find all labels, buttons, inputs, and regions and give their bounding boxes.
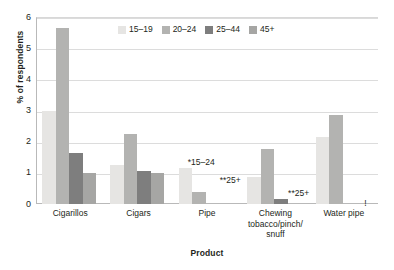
bar [124,134,138,204]
legend-swatch-icon [249,26,257,34]
bar [261,149,275,204]
bar-annotation: ! [364,198,366,208]
legend-item: 25–44 [205,25,240,34]
bar [83,173,97,204]
bar [69,153,83,204]
bar-group [37,18,105,204]
bar-group [105,18,173,204]
bar-group [311,18,379,204]
legend-item: 45+ [249,25,274,34]
bar [192,192,206,204]
y-axis-tick-label: 1 [12,168,31,177]
plot-area: *15–24**25+**25+! [36,17,378,204]
legend-label: 25–44 [216,25,240,34]
legend-label: 20–24 [173,25,197,34]
legend-swatch-icon [205,26,213,34]
bar [316,137,330,204]
bar [274,199,288,204]
x-axis-tick-label: Cigars [104,208,172,219]
bar [329,115,343,204]
legend: 15–1920–2425–4445+ [118,25,274,34]
y-axis-tick-labels: 0123456 [12,0,31,270]
y-axis-tick-label: 4 [12,75,31,84]
y-axis-tick-label: 3 [12,106,31,115]
x-axis-title: Product [36,248,378,258]
x-axis-tick-label: Chewingtobacco/pinch/snuff [241,208,309,240]
x-axis-tick-label: Pipe [173,208,241,219]
bar-groups [37,18,378,204]
x-axis-tick-label: Cigarillos [36,208,104,219]
legend-label: 15–19 [129,25,153,34]
bar [137,171,151,204]
bar [56,28,70,204]
y-axis-tick-label: 5 [12,44,31,53]
bar [247,177,261,204]
bar [42,111,56,205]
x-axis-tick-label-line: tobacco/pinch/ [241,219,309,230]
x-axis-tick-label-line: Water pipe [310,208,378,219]
legend-item: 20–24 [162,25,197,34]
x-axis-tick-label: Water pipe [310,208,378,219]
x-axis-tick-label-line: Chewing [241,208,309,219]
x-axis-tick-label-line: Cigars [104,208,172,219]
legend-swatch-icon [162,26,170,34]
y-axis-tick-label: 0 [12,200,31,209]
legend-label: 45+ [260,25,274,34]
grouped-bar-chart: % of respondents 0123456 *15–24**25+**25… [0,0,394,270]
bar [179,168,193,204]
bar-annotation: **25+ [288,188,309,198]
bar-group [242,18,310,204]
y-axis-tick-label: 6 [12,13,31,22]
y-axis-tick-label: 2 [12,137,31,146]
x-axis-tick-label-line: Pipe [173,208,241,219]
bar-annotation: *15–24 [188,157,215,167]
legend-item: 15–19 [118,25,153,34]
legend-swatch-icon [118,26,126,34]
bar-annotation: **25+ [220,175,241,185]
x-axis-tick-label-line: snuff [241,229,309,240]
bar [151,173,165,204]
bar [110,165,124,204]
x-axis-tick-label-line: Cigarillos [36,208,104,219]
